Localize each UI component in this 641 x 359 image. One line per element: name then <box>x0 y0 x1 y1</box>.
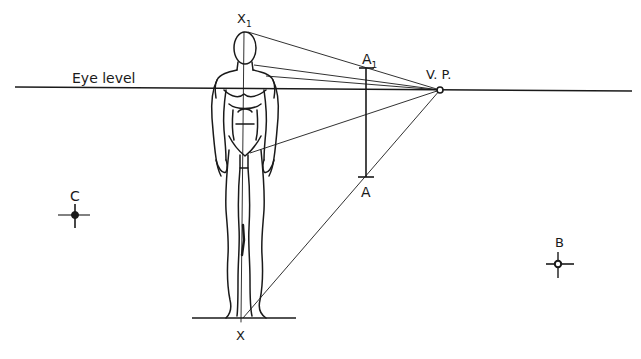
c-label: C <box>70 189 80 203</box>
x1-label-sub: 1 <box>246 19 252 29</box>
a1-label-sub: 1 <box>372 60 378 70</box>
eye-level-label: Eye level <box>72 71 136 85</box>
vanishing-point-marker <box>437 87 443 93</box>
figure-axis <box>241 32 244 322</box>
convergence-lines <box>243 32 440 318</box>
point-b-marker <box>546 252 574 278</box>
eye-level-line <box>15 87 632 91</box>
x1-label: X1 <box>237 12 252 25</box>
a1-label: A1 <box>362 52 377 66</box>
vanishing-point-label: V. P. <box>426 68 451 81</box>
x-label: X <box>236 329 245 342</box>
b-label: B <box>555 236 564 249</box>
a1-label-main: A <box>362 51 372 67</box>
human-figure <box>212 32 279 322</box>
perspective-diagram: Eye level V. P. X1 X A1 A B C <box>0 0 641 359</box>
a-label: A <box>361 185 371 199</box>
point-c-marker <box>58 204 90 228</box>
figure-head <box>234 32 256 64</box>
diagram-canvas <box>0 0 641 359</box>
x1-label-main: X <box>237 11 246 26</box>
